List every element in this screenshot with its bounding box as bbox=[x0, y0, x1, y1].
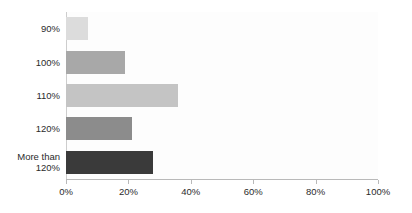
x-axis-tick-label: 80% bbox=[306, 186, 325, 197]
bar-row: 90% bbox=[0, 12, 412, 45]
x-axis-tick bbox=[316, 180, 317, 184]
bar-track bbox=[66, 12, 378, 45]
x-axis-tick-label: 0% bbox=[59, 186, 73, 197]
bar-row: 120% bbox=[0, 112, 412, 145]
bar-rows: 90%100%110%120%More than 120% bbox=[0, 12, 412, 179]
bar bbox=[66, 17, 88, 40]
bar-row: 100% bbox=[0, 45, 412, 78]
x-axis-tick bbox=[378, 180, 379, 184]
bar-row: 110% bbox=[0, 79, 412, 112]
bar-track bbox=[66, 79, 378, 112]
x-axis-tick-label: 60% bbox=[244, 186, 263, 197]
x-axis-tick bbox=[128, 180, 129, 184]
x-axis-tick bbox=[66, 180, 67, 184]
bar bbox=[66, 117, 132, 140]
x-axis-tick-label: 40% bbox=[181, 186, 200, 197]
bar-track bbox=[66, 112, 378, 145]
category-label: More than 120% bbox=[0, 151, 60, 173]
x-axis-tick bbox=[253, 180, 254, 184]
x-axis-tick-labels: 0%20%40%60%80%100% bbox=[0, 186, 412, 200]
category-label: 120% bbox=[0, 123, 60, 134]
bar bbox=[66, 151, 153, 174]
category-label: 110% bbox=[0, 90, 60, 101]
bar-track bbox=[66, 146, 378, 179]
x-axis-tick-label: 100% bbox=[366, 186, 390, 197]
x-axis-tick-label: 20% bbox=[119, 186, 138, 197]
x-axis-tick bbox=[191, 180, 192, 184]
category-label: 100% bbox=[0, 57, 60, 68]
x-axis-line bbox=[66, 179, 378, 180]
bar-track bbox=[66, 45, 378, 78]
category-label: 90% bbox=[0, 23, 60, 34]
bar-row: More than 120% bbox=[0, 146, 412, 179]
bar-chart: 90%100%110%120%More than 120% 0%20%40%60… bbox=[0, 0, 412, 213]
bar bbox=[66, 84, 178, 107]
bar bbox=[66, 51, 125, 74]
